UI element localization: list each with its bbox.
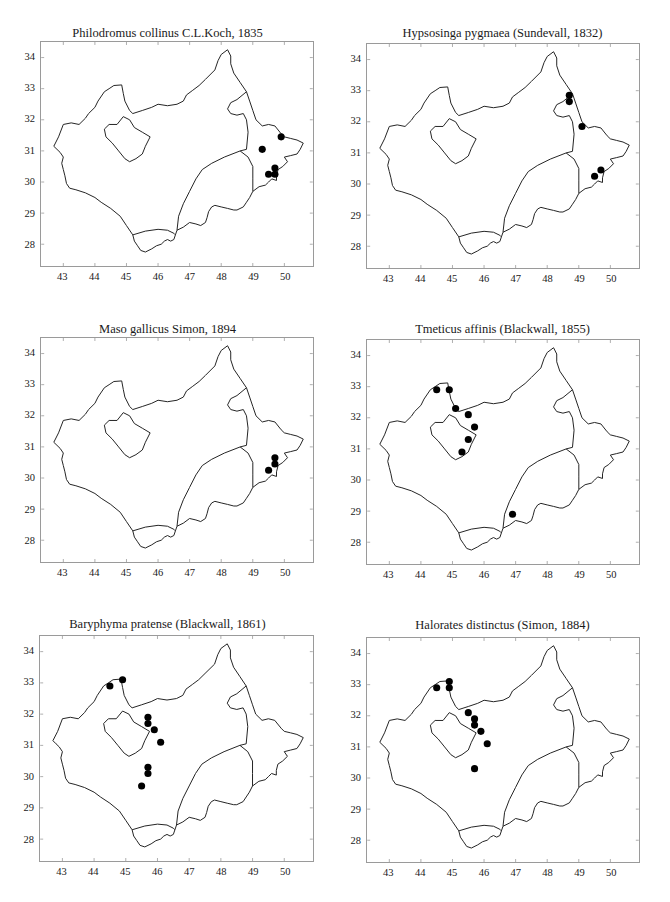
x-tick-label: 46 — [147, 866, 167, 878]
x-tick-label: 44 — [83, 866, 103, 878]
occurrence-marker — [446, 684, 453, 691]
province-border — [459, 231, 502, 237]
y-tick-label: 30 — [341, 474, 361, 486]
y-tick-label: 29 — [14, 802, 34, 814]
x-tick-label: 46 — [474, 569, 494, 581]
lake-outline — [104, 711, 150, 756]
y-tick-label: 29 — [15, 208, 35, 220]
x-tick-label: 43 — [52, 271, 72, 283]
x-tick-label: 43 — [51, 866, 71, 878]
y-tick-label: 30 — [341, 178, 361, 190]
y-tick-label: 33 — [341, 380, 361, 392]
x-tick-label: 50 — [275, 567, 295, 579]
occurrence-marker — [271, 171, 278, 178]
y-tick-label: 32 — [14, 708, 34, 720]
occurrence-marker — [144, 720, 151, 727]
occurrence-marker — [138, 782, 145, 789]
map-canvas — [367, 340, 639, 564]
plot-frame — [39, 635, 314, 862]
x-tick-label: 50 — [601, 867, 621, 879]
occurrence-marker — [157, 739, 164, 746]
occurrence-marker — [591, 173, 598, 180]
y-tick-label: 29 — [15, 504, 35, 516]
region-outline — [54, 346, 303, 548]
province-border — [133, 525, 176, 531]
occurrence-marker — [452, 405, 459, 412]
map-panel-4: Tmeticus affinis (Blackwall, 1855) 43444… — [335, 295, 670, 585]
x-tick-label: 49 — [569, 867, 589, 879]
y-tick-label: 30 — [14, 771, 34, 783]
x-tick-label: 43 — [378, 273, 398, 285]
y-tick-label: 33 — [341, 678, 361, 690]
region-outline — [380, 52, 629, 254]
y-tick-label: 31 — [341, 741, 361, 753]
occurrence-marker — [484, 740, 491, 747]
y-tick-label: 31 — [341, 147, 361, 159]
x-tick-label: 43 — [52, 567, 72, 579]
y-tick-label: 34 — [341, 53, 361, 65]
x-tick-label: 43 — [378, 569, 398, 581]
plot-frame — [366, 339, 640, 565]
y-tick-label: 34 — [341, 647, 361, 659]
occurrence-marker — [259, 146, 266, 153]
province-border — [240, 151, 253, 191]
occurrence-marker — [465, 709, 472, 716]
y-tick-label: 31 — [341, 443, 361, 455]
x-tick-label: 45 — [442, 273, 462, 285]
occurrence-marker — [144, 764, 151, 771]
y-tick-label: 33 — [15, 378, 35, 390]
lake-outline — [104, 117, 150, 162]
x-tick-label: 45 — [115, 866, 135, 878]
occurrence-marker — [471, 765, 478, 772]
province-border — [459, 825, 502, 831]
x-tick-label: 46 — [474, 273, 494, 285]
x-tick-label: 48 — [538, 569, 558, 581]
y-tick-label: 28 — [341, 835, 361, 847]
y-tick-label: 28 — [341, 537, 361, 549]
y-tick-label: 34 — [14, 645, 34, 657]
map-panel-3: Maso gallicus Simon, 1894 43444546474849… — [0, 295, 335, 585]
plot-frame — [366, 43, 640, 269]
y-tick-label: 31 — [14, 739, 34, 751]
x-tick-label: 44 — [410, 273, 430, 285]
x-tick-label: 47 — [180, 567, 200, 579]
y-tick-label: 29 — [341, 506, 361, 518]
panel-title: Tmeticus affinis (Blackwall, 1855) — [335, 322, 670, 337]
x-tick-label: 50 — [601, 273, 621, 285]
x-tick-label: 47 — [179, 866, 199, 878]
y-tick-label: 33 — [341, 84, 361, 96]
province-border — [566, 747, 579, 787]
map-panel-1: Philodromus collinus C.L.Koch, 1835 4344… — [0, 0, 335, 290]
x-tick-label: 45 — [442, 867, 462, 879]
x-tick-label: 47 — [506, 569, 526, 581]
x-tick-label: 49 — [569, 569, 589, 581]
x-tick-label: 49 — [243, 567, 263, 579]
occurrence-marker — [433, 684, 440, 691]
x-tick-label: 48 — [538, 867, 558, 879]
region-outline — [53, 644, 303, 847]
occurrence-marker — [446, 386, 453, 393]
lake-outline — [104, 413, 150, 458]
plot-frame — [40, 41, 314, 267]
lake-outline — [430, 713, 476, 758]
x-tick-label: 50 — [275, 866, 295, 878]
occurrence-marker — [458, 448, 465, 455]
occurrence-marker — [106, 682, 113, 689]
occurrence-marker — [446, 678, 453, 685]
y-tick-label: 32 — [15, 409, 35, 421]
y-tick-label: 33 — [14, 676, 34, 688]
map-canvas — [41, 338, 313, 562]
plot-frame — [366, 637, 640, 863]
occurrence-marker — [144, 714, 151, 721]
y-tick-label: 34 — [15, 51, 35, 63]
x-tick-label: 50 — [275, 271, 295, 283]
occurrence-marker — [471, 424, 478, 431]
x-tick-label: 48 — [212, 271, 232, 283]
occurrence-marker — [271, 454, 278, 461]
occurrence-marker — [265, 171, 272, 178]
y-tick-label: 29 — [341, 210, 361, 222]
occurrence-marker — [477, 728, 484, 735]
region-outline — [380, 348, 629, 550]
map-panel-5: Baryphyma pratense (Blackwall, 1861) 434… — [0, 605, 335, 902]
y-tick-label: 32 — [341, 115, 361, 127]
